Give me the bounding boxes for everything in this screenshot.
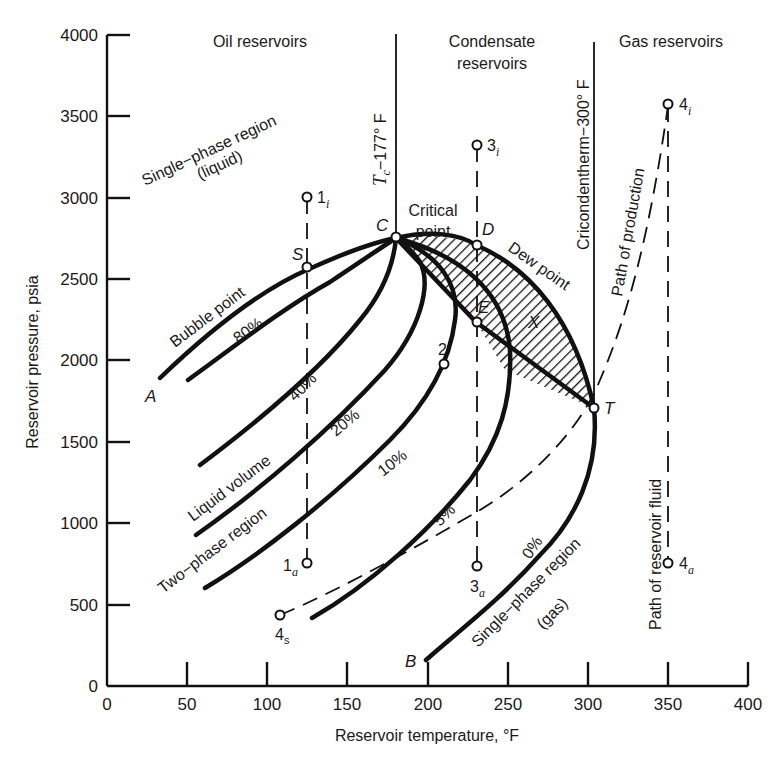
point-markers xyxy=(276,100,673,620)
point-e xyxy=(473,318,482,327)
point-1i xyxy=(303,193,312,202)
label-2: 2 xyxy=(438,341,447,358)
point-2 xyxy=(440,360,449,369)
y-tick-1000: 1000 xyxy=(60,514,98,533)
x-axis-title: Reservoir temperature, °F xyxy=(335,727,519,744)
y-tick-labels: 4000 3500 3000 2500 2000 1500 1000 500 0 xyxy=(60,26,98,696)
y-tick-2000: 2000 xyxy=(60,351,98,370)
point-d xyxy=(473,241,482,250)
point-4i xyxy=(664,100,673,109)
label-4s: 4s xyxy=(275,626,290,646)
single-phase-gas-label-2: (gas) xyxy=(533,594,571,632)
y-tick-3000: 3000 xyxy=(60,189,98,208)
tc-label: Tc−177° F xyxy=(369,113,393,186)
critical-point-label-1: Critical xyxy=(409,202,458,219)
x-tick-100: 100 xyxy=(253,695,281,714)
point-letters: A B C D E S T X xyxy=(144,216,616,671)
label-4a: 4a xyxy=(679,555,694,577)
x-tick-0: 0 xyxy=(102,695,111,714)
path-of-reservoir-fluid-label: Path of reservoir fluid xyxy=(647,479,664,630)
tc-value: −177° F xyxy=(372,113,389,170)
label-40-percent: 40% xyxy=(285,369,320,404)
condensate-label-line1: Condensate xyxy=(449,33,535,50)
point-4s xyxy=(276,611,285,620)
point-4a xyxy=(664,559,673,568)
label-5-percent: 5% xyxy=(430,501,458,529)
x-tick-200: 200 xyxy=(414,695,442,714)
path-of-production-curve xyxy=(280,106,668,615)
letter-s: S xyxy=(292,245,304,264)
point-t xyxy=(590,404,599,413)
y-tick-0: 0 xyxy=(89,677,98,696)
x-tick-labels: 0 50 100 150 200 250 300 350 400 xyxy=(102,695,762,714)
letter-e: E xyxy=(478,298,490,317)
point-c xyxy=(392,233,401,242)
condensate-label-line2: reservoirs xyxy=(457,55,527,72)
letter-x: X xyxy=(527,313,540,332)
y-tick-4000: 4000 xyxy=(60,26,98,45)
phase-diagram: 4000 3500 3000 2500 2000 1500 1000 500 0… xyxy=(0,0,782,763)
point-s xyxy=(303,263,312,272)
critical-point-label-2: point xyxy=(416,223,451,240)
x-tick-150: 150 xyxy=(333,695,361,714)
letter-d: D xyxy=(482,220,494,239)
y-tick-3500: 3500 xyxy=(60,107,98,126)
gas-reservoirs-label: Gas reservoirs xyxy=(619,33,723,50)
x-tick-300: 300 xyxy=(574,695,602,714)
y-ticks xyxy=(107,35,130,605)
point-1a xyxy=(303,559,312,568)
letter-b: B xyxy=(405,652,416,671)
point-3a xyxy=(473,562,482,571)
x-tick-250: 250 xyxy=(494,695,522,714)
point-3i xyxy=(473,141,482,150)
x-tick-400: 400 xyxy=(734,695,762,714)
label-1i: 1i xyxy=(317,189,329,211)
zero-percent-curve xyxy=(426,408,595,660)
retrograde-region-hatch xyxy=(396,236,594,408)
label-80-percent: 80% xyxy=(230,314,266,346)
label-1a: 1a xyxy=(283,557,298,579)
label-0-percent: 0% xyxy=(519,533,546,562)
svg-text:Tc−177° F: Tc−177° F xyxy=(369,113,393,186)
label-20-percent: 20% xyxy=(327,406,362,440)
letter-a: A xyxy=(144,387,156,406)
x-tick-50: 50 xyxy=(178,695,197,714)
label-3i: 3i xyxy=(487,137,499,159)
y-tick-500: 500 xyxy=(70,596,98,615)
oil-reservoirs-label: Oil reservoirs xyxy=(213,33,307,50)
label-3a: 3a xyxy=(470,578,485,600)
x-tick-350: 350 xyxy=(654,695,682,714)
letter-c: C xyxy=(376,216,389,235)
label-4i: 4i xyxy=(679,96,691,118)
letter-t: T xyxy=(604,399,616,418)
y-axis-title: Reservoir pressure, psia xyxy=(24,275,41,449)
y-tick-2500: 2500 xyxy=(60,270,98,289)
y-tick-1500: 1500 xyxy=(60,433,98,452)
path-of-production-label: Path of production xyxy=(608,167,647,298)
cricondentherm-label: Cricondentherm−300° F xyxy=(575,79,592,250)
x-ticks xyxy=(187,662,748,686)
